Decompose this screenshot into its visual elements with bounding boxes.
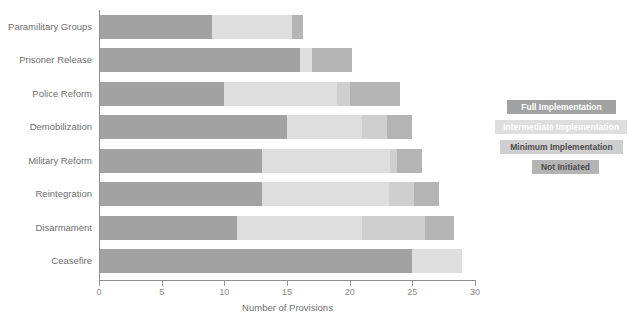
bar-segment-intermediate[interactable] [262,182,389,206]
bar-segment-notinit[interactable] [312,48,352,72]
x-axis-tick-label: 25 [407,287,417,297]
category-label: Reintegration [0,188,92,199]
bar-segment-intermediate[interactable] [262,149,390,173]
category-label: Ceasefire [0,255,92,266]
bar-segment-notinit[interactable] [387,115,412,139]
bar-row [99,15,303,39]
bar-row [99,249,462,273]
bar-segment-full[interactable] [99,182,262,206]
x-axis-tick-label: 0 [96,287,101,297]
x-axis-tick [350,281,351,286]
plot-area [99,10,475,278]
bar-row [99,216,454,240]
bar-segment-full[interactable] [99,115,287,139]
legend: Full Implementation Intermediate Impleme… [495,100,627,180]
bar-segment-minimum[interactable] [337,82,350,106]
bar-segment-intermediate[interactable] [300,48,313,72]
bar-segment-notinit[interactable] [350,82,400,106]
bar-segment-minimum[interactable] [362,115,387,139]
bar-segment-full[interactable] [99,48,300,72]
category-label: Disarmament [0,222,92,233]
bar-row [99,149,422,173]
y-axis-line [99,10,100,281]
x-axis-tick [99,281,100,286]
bar-segment-full[interactable] [99,249,412,273]
legend-item-full-implementation[interactable]: Full Implementation [507,100,616,114]
category-label: Demobilization [0,121,92,132]
bar-segment-minimum[interactable] [389,182,414,206]
bar-row [99,82,400,106]
x-axis-tick-label: 30 [470,287,480,297]
bar-segment-notinit[interactable] [397,149,422,173]
legend-item-minimum-implementation[interactable]: Minimum Implementation [500,140,623,154]
bar-row [99,182,439,206]
bar-segment-notinit[interactable] [292,15,303,39]
x-axis-tick-label: 10 [219,287,229,297]
x-axis-tick [412,281,413,286]
category-label: Prisoner Release [0,54,92,65]
bar-segment-intermediate[interactable] [237,216,362,240]
bar-segment-notinit[interactable] [425,216,454,240]
bar-row [99,48,352,72]
bar-segment-intermediate[interactable] [287,115,362,139]
legend-item-intermediate-implementation[interactable]: Intermediate Implementation [495,120,627,134]
x-axis-tick [475,281,476,286]
bar-segment-full[interactable] [99,15,212,39]
category-label: Military Reform [0,155,92,166]
bar-segment-full[interactable] [99,82,224,106]
bar-segment-intermediate[interactable] [412,249,462,273]
bar-segment-minimum[interactable] [362,216,425,240]
category-axis-labels: Paramilitary GroupsPrisoner ReleasePolic… [0,10,92,278]
legend-item-not-initiated[interactable]: Not Initiated [532,160,599,174]
x-axis-tick [287,281,288,286]
bar-segment-full[interactable] [99,216,237,240]
x-axis-tick-label: 20 [345,287,355,297]
bar-row [99,115,412,139]
x-axis-tick [224,281,225,286]
stacked-bar-chart: Paramilitary GroupsPrisoner ReleasePolic… [0,0,634,323]
category-label: Police Reform [0,88,92,99]
bar-segment-full[interactable] [99,149,262,173]
x-axis-title: Number of Provisions [99,302,476,313]
category-label: Paramilitary Groups [0,21,92,32]
x-axis-tick-label: 15 [282,287,292,297]
bar-segment-intermediate[interactable] [212,15,292,39]
x-axis-tick [162,281,163,286]
bar-segment-notinit[interactable] [414,182,439,206]
x-axis-tick-label: 5 [159,287,164,297]
bar-segment-intermediate[interactable] [224,82,337,106]
bar-segment-minimum[interactable] [390,149,398,173]
